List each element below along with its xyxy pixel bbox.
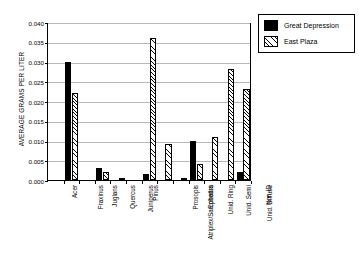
- y-tick-label: 0.025: [0, 79, 44, 86]
- bar-east-plaza-prosopis: [165, 144, 171, 180]
- x-tick-mark: [95, 181, 96, 184]
- y-tick-label: 0.015: [0, 118, 44, 125]
- x-tick-label: Pinus: [152, 185, 159, 201]
- x-tick-mark: [189, 181, 190, 184]
- x-tick-mark: [235, 181, 236, 184]
- legend-swatch-solid-icon: [264, 20, 278, 31]
- x-tick-label: Acer: [71, 185, 78, 198]
- chart-legend: Great Depression East Plaza: [258, 14, 355, 53]
- y-tick-label: 0.020: [0, 99, 44, 106]
- x-tick-label: Fraxinus: [98, 185, 105, 209]
- bars-layer: [48, 23, 250, 180]
- x-tick-mark: [251, 181, 252, 184]
- legend-swatch-hatch-icon: [264, 36, 278, 47]
- x-tick-mark: [173, 181, 174, 184]
- plot-area: [47, 23, 250, 181]
- legend-label-great-depression: Great Depression: [284, 21, 339, 31]
- bar-east-plaza-fraxinus: [72, 93, 78, 180]
- y-tick-label: 0.005: [0, 158, 44, 165]
- bar-great-depression-atriplex-sarcobatus: [143, 174, 149, 180]
- chart-container: AVERAGE GRAMS PER LITER 0.0400.0350.0300…: [0, 0, 359, 272]
- x-tick-label: Non-ID: [265, 185, 272, 205]
- x-tick-label: Unid. Semi: [245, 185, 252, 216]
- legend-label-east-plaza: East Plaza: [284, 37, 317, 47]
- bar-east-plaza-unid-diffuse: [228, 69, 234, 180]
- bar-great-depression-unid-ring: [190, 141, 196, 181]
- x-tick-mark: [64, 181, 65, 184]
- x-tick-mark: [220, 181, 221, 184]
- x-tick-mark: [79, 181, 80, 184]
- bar-east-plaza-atriplex-sarcobatus: [150, 38, 156, 180]
- x-tick-label: Juglans: [111, 185, 118, 207]
- x-tick-mark: [142, 181, 143, 184]
- x-tick-mark: [157, 181, 158, 184]
- bar-east-plaza-juniperus: [119, 178, 125, 180]
- bar-east-plaza-non-id: [243, 89, 249, 180]
- bar-great-depression-quercus: [96, 168, 102, 180]
- bar-east-plaza-quercus: [103, 172, 109, 180]
- bar-east-plaza-ephedra: [181, 178, 187, 180]
- y-tick-label: 0.030: [0, 59, 44, 66]
- plot-frame-right: [250, 23, 251, 181]
- x-tick-mark: [204, 181, 205, 184]
- bar-east-plaza-unid-semi: [212, 137, 218, 180]
- bar-east-plaza-unid-ring: [197, 164, 203, 180]
- y-tick-mark: [45, 181, 48, 182]
- y-tick-label: 0.010: [0, 138, 44, 145]
- x-tick-mark: [110, 181, 111, 184]
- y-tick-label: 0.040: [0, 20, 44, 27]
- x-tick-label: Quercus: [128, 185, 135, 209]
- x-tick-label: Ephedra: [207, 185, 214, 209]
- y-tick-label: 0.035: [0, 39, 44, 46]
- x-tick-label: Prosopis: [192, 185, 199, 210]
- bar-great-depression-non-id: [237, 172, 243, 180]
- x-tick-mark: [126, 181, 127, 184]
- x-tick-label: Unid. Ring: [228, 185, 235, 214]
- bar-great-depression-fraxinus: [65, 62, 71, 181]
- y-tick-label: 0.000: [0, 178, 44, 185]
